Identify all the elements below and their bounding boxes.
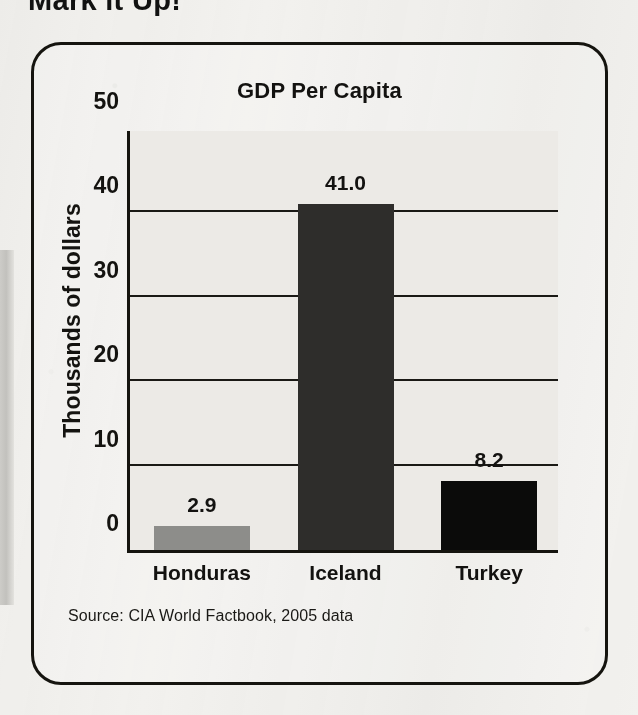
y-tick-label: 0 [106,510,119,537]
y-tick-label: 20 [93,341,119,368]
y-axis-title: Thousands of dollars [59,131,86,511]
source-note: Source: CIA World Factbook, 2005 data [68,607,353,625]
bar-value-label: 8.2 [475,448,504,472]
bar [154,526,250,550]
bar [441,481,537,550]
chart-title: GDP Per Capita [34,78,605,104]
y-tick-label: 10 [93,425,119,452]
y-tick-label: 50 [93,88,119,115]
bar-value-label: 41.0 [325,171,366,195]
y-tick-label: 30 [93,256,119,283]
plot-area: 01020304050 2.9Honduras41.0Iceland8.2Tur… [127,131,558,553]
y-tick-label: 40 [93,172,119,199]
category-label: Iceland [274,561,418,585]
page-edge-strip [0,250,14,605]
category-label: Honduras [130,561,274,585]
page-heading: Mark it Up! [28,0,181,17]
bar [298,204,394,550]
bar-value-label: 2.9 [187,493,216,517]
figure-frame: GDP Per Capita Thousands of dollars 0102… [31,42,608,685]
category-label: Turkey [417,561,561,585]
